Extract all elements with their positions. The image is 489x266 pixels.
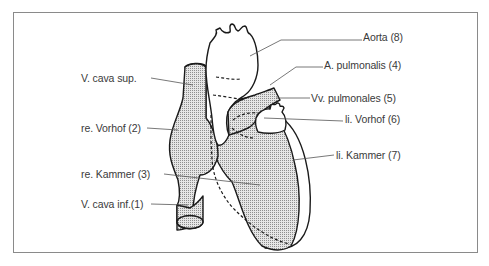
- label-re-kammer: re. Kammer (3): [81, 168, 150, 180]
- leader-aorta: [250, 40, 362, 56]
- heart-diagram: [0, 0, 489, 266]
- label-aorta: Aorta (8): [363, 31, 403, 43]
- label-vv-pulmonales: Vv. pulmonales (5): [311, 92, 396, 104]
- label-re-vorhof: re. Vorhof (2): [81, 122, 141, 134]
- v-cava-inf-opening: [177, 216, 203, 229]
- label-v-cava-sup: V. cava sup.: [81, 72, 137, 84]
- label-li-vorhof: li. Vorhof (6): [345, 113, 400, 125]
- label-a-pulmonalis: A. pulmonalis (4): [324, 59, 401, 71]
- label-li-kammer: li. Kammer (7): [336, 149, 401, 161]
- leader-a-pulmonalis: [270, 67, 323, 85]
- label-v-cava-inf: V. cava inf.(1): [81, 198, 143, 210]
